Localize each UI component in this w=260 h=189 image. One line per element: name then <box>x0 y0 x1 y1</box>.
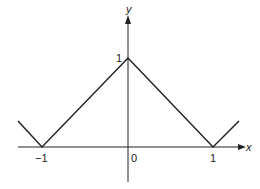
y-axis-arrow-icon <box>125 15 131 24</box>
x-tick-0: 0 <box>131 152 137 164</box>
chart: y x 1 −1 0 1 <box>0 0 260 189</box>
x-tick-1: 1 <box>210 152 216 164</box>
x-tick-neg1: −1 <box>35 152 48 164</box>
y-tick-1: 1 <box>116 52 122 64</box>
x-axis-arrow-icon <box>238 144 246 150</box>
x-axis-label: x <box>245 141 252 153</box>
y-axis-label: y <box>125 3 133 15</box>
plot-area: y x 1 −1 0 1 <box>0 0 260 189</box>
